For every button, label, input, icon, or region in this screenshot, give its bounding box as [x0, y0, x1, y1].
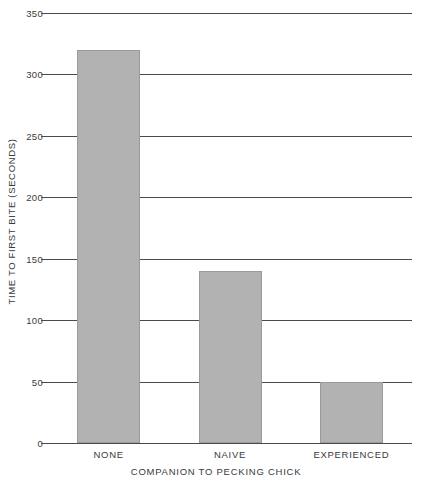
- y-axis-tick-label: 0: [14, 438, 43, 449]
- bar-chart: TIME TO FIRST BITE (SECONDS) 05010015020…: [0, 0, 432, 486]
- x-axis-category-labels: NONENAIVEEXPERIENCED: [48, 449, 412, 463]
- gridline: [48, 443, 412, 444]
- gridline: [48, 13, 412, 14]
- y-axis-tick-label: 50: [14, 376, 43, 387]
- y-axis-tick-label: 100: [14, 315, 43, 326]
- bar: [320, 382, 383, 443]
- bar: [77, 50, 140, 443]
- x-axis-category-label: NAIVE: [214, 449, 246, 460]
- y-axis-tick-labels: 050100150200250300350: [14, 0, 43, 486]
- x-axis-category-label: NONE: [94, 449, 124, 460]
- bar: [199, 271, 262, 443]
- x-axis-title: COMPANION TO PECKING CHICK: [0, 466, 432, 477]
- y-axis-tick-label: 150: [14, 253, 43, 264]
- x-axis-category-label: EXPERIENCED: [313, 449, 389, 460]
- plot-area: [48, 13, 412, 443]
- y-axis-tick-label: 300: [14, 69, 43, 80]
- y-axis-tick-label: 250: [14, 130, 43, 141]
- y-axis-tick-label: 350: [14, 8, 43, 19]
- y-axis-tick-label: 200: [14, 192, 43, 203]
